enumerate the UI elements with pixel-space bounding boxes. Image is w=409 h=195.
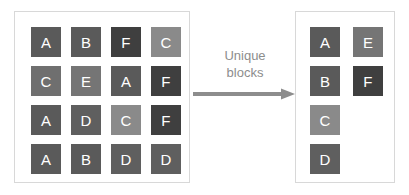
block-tile: A bbox=[31, 27, 61, 57]
unique-block-grid: AEBFCD bbox=[296, 12, 394, 182]
block-tile: D bbox=[71, 105, 101, 135]
block-tile: B bbox=[71, 27, 101, 57]
block-tile: C bbox=[31, 66, 61, 96]
block-tile: D bbox=[151, 144, 181, 174]
block-tile: A bbox=[310, 27, 340, 57]
block-tile: F bbox=[353, 66, 383, 96]
transform-arrow-icon bbox=[193, 88, 295, 100]
block-tile: D bbox=[111, 144, 141, 174]
unique-blocks-diagram: ABFCCEAFADCFABDD Unique blocks AEBFCD bbox=[0, 0, 409, 195]
block-tile: E bbox=[71, 66, 101, 96]
block-tile: B bbox=[310, 66, 340, 96]
block-tile: A bbox=[111, 66, 141, 96]
source-block-grid: ABFCCEAFADCFABDD bbox=[15, 12, 189, 182]
block-tile: C bbox=[310, 105, 340, 135]
block-tile: A bbox=[31, 144, 61, 174]
block-tile: F bbox=[151, 66, 181, 96]
block-tile: E bbox=[353, 27, 383, 57]
block-tile: A bbox=[31, 105, 61, 135]
block-tile: D bbox=[310, 144, 340, 174]
block-tile: F bbox=[111, 27, 141, 57]
transform-label: Unique blocks bbox=[203, 47, 287, 81]
block-tile: B bbox=[71, 144, 101, 174]
block-tile: F bbox=[151, 105, 181, 135]
block-tile: C bbox=[151, 27, 181, 57]
unique-blocks-panel: AEBFCD bbox=[295, 11, 395, 183]
block-tile: C bbox=[111, 105, 141, 135]
source-blocks-panel: ABFCCEAFADCFABDD bbox=[14, 11, 190, 183]
